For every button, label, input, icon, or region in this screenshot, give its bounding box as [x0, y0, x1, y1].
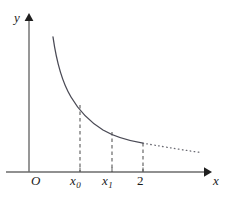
tick-label-2: 2 [137, 174, 144, 187]
tick-label-x1-base: x [102, 173, 108, 188]
curve-dotted-segment [143, 143, 200, 152]
figure-container: y x O x0 x1 2 [0, 0, 241, 203]
x-axis-label: x [213, 174, 219, 187]
tick-label-x1-subscript: 1 [108, 180, 113, 190]
origin-label: O [31, 174, 40, 187]
tick-label-x0-subscript: 0 [76, 180, 81, 190]
y-axis-arrow-icon [25, 13, 34, 21]
y-axis-label: y [14, 11, 20, 24]
tick-label-x1: x1 [102, 174, 113, 190]
curve-solid-segment [53, 37, 143, 143]
tick-label-x0-base: x [70, 173, 76, 188]
x-axis-arrow-icon [204, 167, 212, 177]
tick-label-x0: x0 [70, 174, 81, 190]
